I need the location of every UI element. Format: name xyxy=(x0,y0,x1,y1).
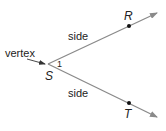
angle-number-label: 1 xyxy=(57,59,62,69)
point-label-s: S xyxy=(45,69,53,83)
angle-diagram: vertex side side 1 S R T xyxy=(0,0,166,131)
vertex-label: vertex xyxy=(5,47,35,59)
point-label-t: T xyxy=(124,107,133,121)
point-r xyxy=(127,24,131,28)
side-label-upper: side xyxy=(68,30,88,42)
point-label-r: R xyxy=(124,9,133,23)
side-label-lower: side xyxy=(68,87,88,99)
vertex-pointer-arrow xyxy=(27,59,45,64)
point-t xyxy=(127,101,131,105)
ray-st xyxy=(48,64,157,117)
ray-sr xyxy=(48,13,157,64)
